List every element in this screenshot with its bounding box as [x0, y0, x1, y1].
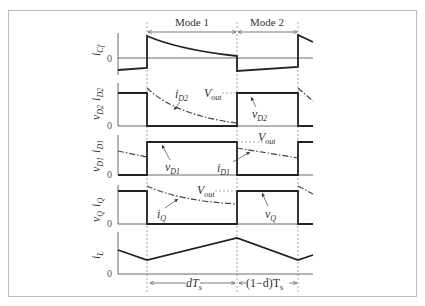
panel-il: 0 iL	[89, 232, 313, 279]
ylabel-il: iL	[89, 251, 105, 259]
svg-text:0: 0	[107, 218, 112, 229]
time-dimensions: dTs (1−d)Ts	[150, 276, 297, 292]
ylabel-icf: iCf	[89, 43, 105, 56]
svg-text:0: 0	[107, 120, 112, 131]
mode1-label: Mode 1	[175, 16, 209, 28]
dts-label: dTs	[186, 276, 202, 292]
svg-text:vD2: vD2	[252, 107, 267, 123]
svg-text:vD1: vD1	[165, 160, 180, 176]
svg-text:iQ: iQ	[157, 207, 166, 223]
panel-d1: 0 vD1 iD1 Vout vD1iD1	[89, 130, 313, 180]
panel-icf: 0 iCf	[89, 33, 313, 75]
panel-d2: 0 iD2 Vout vD2 vD2iD2	[89, 83, 313, 131]
waveform-diagram: Mode 1 Mode 2 0 iCf 0 iD2 Vout vD2 vD2iD…	[0, 0, 425, 306]
svg-text:Vout: Vout	[197, 183, 215, 199]
panel-q: 0 Vout iQ vQ vQiQ	[89, 183, 313, 229]
svg-text:iD1: iD1	[217, 161, 230, 177]
mode-annotation: Mode 1 Mode 2	[148, 16, 297, 32]
mode2-label: Mode 2	[250, 16, 284, 28]
ylabel-d1: vD1iD1	[89, 140, 105, 172]
svg-text:0: 0	[107, 53, 112, 64]
one-minus-d-ts-label: (1−d)Ts	[246, 276, 283, 292]
svg-text:vQ: vQ	[265, 207, 276, 223]
svg-text:0: 0	[107, 169, 112, 180]
svg-text:0: 0	[107, 268, 112, 279]
svg-text:Vout: Vout	[204, 86, 222, 102]
svg-text:Vout: Vout	[258, 130, 276, 146]
ylabel-q: vQiQ	[89, 198, 105, 222]
svg-text:iD2: iD2	[175, 87, 188, 103]
ylabel-d2: vD2iD2	[89, 88, 105, 120]
